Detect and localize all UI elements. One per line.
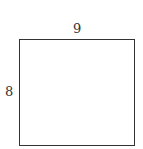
left-side-length-label: 8 [5,85,13,98]
rectangle-shape [19,39,135,146]
top-side-length-label: 9 [73,22,81,35]
